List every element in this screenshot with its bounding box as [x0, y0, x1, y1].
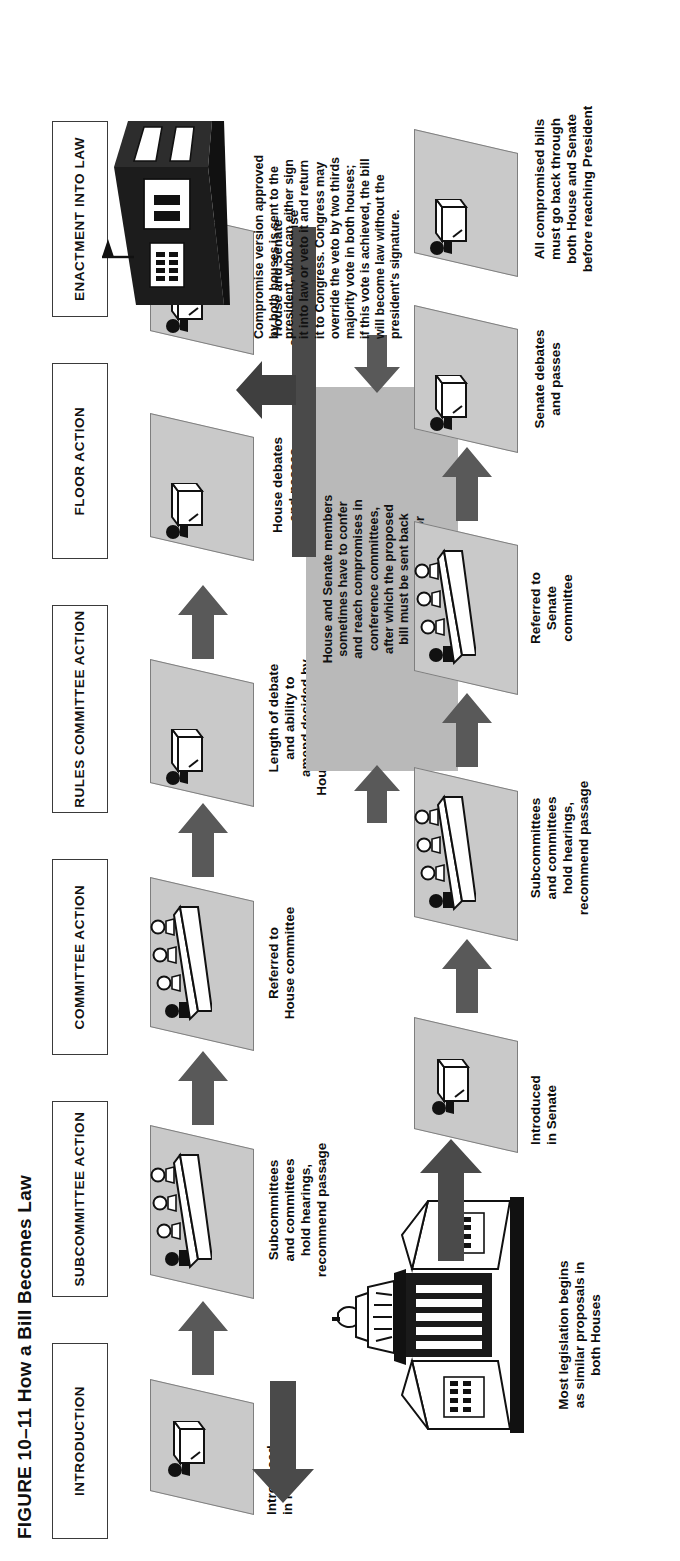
block-arrow-icon: [176, 803, 230, 877]
podium-icon: [164, 483, 210, 545]
caption-house-subcommittee: Subcommittees and committees hold hearin…: [266, 1103, 330, 1317]
podium-icon: [428, 199, 474, 261]
caption-referred-senate-committee: Referred to Senate committee: [528, 515, 576, 701]
podium-icon: [164, 729, 210, 791]
how-a-bill-becomes-law-figure: FIGURE 10–11 How a Bill Becomes Law INTR…: [0, 0, 680, 1561]
block-arrow-icon: [176, 585, 230, 659]
block-arrow-icon: [352, 765, 402, 823]
podium-icon: [428, 375, 474, 437]
figure-title: FIGURE 10–11 How a Bill Becomes Law: [14, 1175, 36, 1539]
caption-referred-house-committee: Referred to House committee: [266, 863, 298, 1063]
president-enactment-text: Compromise version approved by both hous…: [252, 39, 403, 339]
header-box-rules-committee: RULES COMMITTEE ACTION: [52, 605, 108, 813]
podium-icon: [430, 1059, 476, 1121]
block-arrow-icon: [176, 1051, 230, 1125]
podium-icon: [166, 1421, 212, 1483]
header-box-floor-action: FLOOR ACTION: [52, 363, 108, 559]
block-arrow-icon: [352, 335, 402, 393]
caption-senate-subcommittee: Subcommittees and committees hold hearin…: [528, 741, 592, 955]
header-box-committee: COMMITTEE ACTION: [52, 859, 108, 1055]
committee-dais-icon: [414, 793, 476, 917]
block-arrow-icon: [176, 1301, 230, 1375]
white-house-icon: [84, 117, 230, 317]
header-box-introduction: INTRODUCTION: [52, 1343, 108, 1539]
caption-all-compromised-bills: All compromised bills must go back throu…: [532, 39, 596, 339]
block-arrow-icon: [250, 1381, 316, 1503]
block-arrow-icon: [440, 447, 494, 521]
block-arrow-icon: [418, 1139, 484, 1261]
caption-most-legislation-begins: Most legislation begins as similar propo…: [556, 1205, 604, 1465]
figure-rotation-wrapper: FIGURE 10–11 How a Bill Becomes Law INTR…: [0, 0, 680, 1561]
caption-introduced-in-senate: Introduced in Senate: [528, 1075, 560, 1145]
block-arrow-icon: [440, 939, 494, 1013]
committee-dais-icon: [150, 1151, 212, 1275]
committee-dais-icon: [414, 547, 476, 671]
header-box-subcommittee: SUBCOMMITTEE ACTION: [52, 1101, 108, 1297]
block-arrow-icon: [236, 359, 296, 421]
committee-dais-icon: [150, 903, 212, 1027]
block-arrow-icon: [440, 693, 494, 767]
